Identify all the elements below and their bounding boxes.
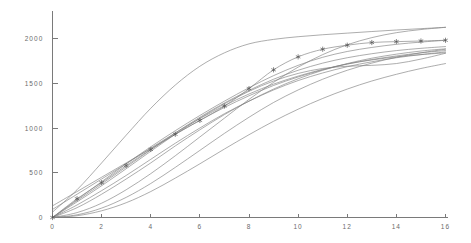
star-marker <box>320 47 325 52</box>
series-line <box>53 40 446 217</box>
series-line <box>53 51 446 206</box>
y-tick-label: 500 <box>29 169 43 176</box>
series-group <box>53 27 446 217</box>
x-tick-label: 0 <box>50 223 55 230</box>
y-tick-label: 1000 <box>25 125 44 132</box>
y-tick-label: 2000 <box>25 35 44 42</box>
x-tick-label: 2 <box>99 223 104 230</box>
x-tick-label: 12 <box>343 223 352 230</box>
x-tick-label: 6 <box>198 223 203 230</box>
series-line <box>53 53 446 217</box>
x-tick-label: 16 <box>441 223 450 230</box>
chart-container: 05001000150020000246810121416 <box>0 0 471 243</box>
y-tick-label: 0 <box>39 214 44 221</box>
x-tick-label: 14 <box>392 223 401 230</box>
series-line <box>53 47 446 218</box>
series-line <box>53 40 446 217</box>
series-line <box>53 49 446 218</box>
y-tick-label: 1500 <box>25 80 44 87</box>
x-tick-label: 4 <box>148 223 153 230</box>
series-line <box>53 49 446 217</box>
star-marker <box>271 67 276 72</box>
tick-marks-group <box>53 39 446 218</box>
x-tick-label: 8 <box>247 223 252 230</box>
x-tick-label: 10 <box>293 223 302 230</box>
markers-group <box>50 38 448 220</box>
line-chart-plot: 05001000150020000246810121416 <box>0 0 471 243</box>
series-line <box>53 53 446 210</box>
star-marker <box>296 54 301 59</box>
